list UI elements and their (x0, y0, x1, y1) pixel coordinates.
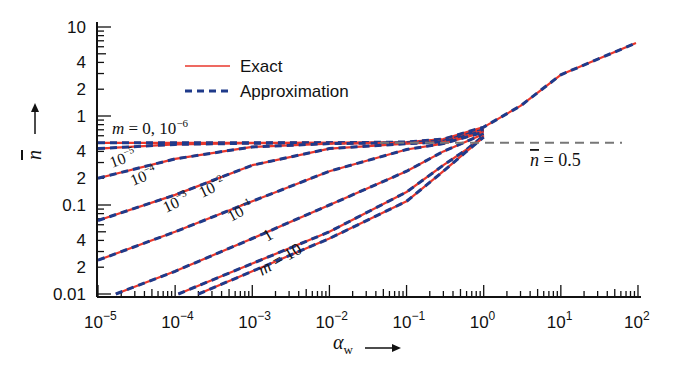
approx-curve (178, 136, 483, 294)
label-m0: m = 0, 10−6 (112, 117, 189, 138)
x-tick-label: 102 (624, 309, 650, 332)
exact-curve (178, 136, 483, 294)
x-tick-label: 10−3 (238, 309, 271, 332)
legend: Exact Approximation (185, 57, 349, 101)
x-axis-title: αw (333, 331, 354, 357)
y-tick-label: 2 (77, 80, 86, 99)
label-1e-4: 10−4 (127, 161, 159, 189)
log-log-line-chart: 10−510−410−310−210−1100101102 10421420.1… (0, 0, 676, 374)
x-tick-label: 100 (470, 309, 496, 332)
label-1e-1: 10−1 (223, 195, 255, 224)
y-tick-label: 2 (77, 169, 86, 188)
legend-exact-label: Exact (240, 57, 283, 76)
ref-line-label: n = 0.5 (530, 150, 581, 170)
label-m10: m = 10 (255, 239, 306, 279)
x-tick-label: 10−5 (84, 309, 117, 332)
x-tick-label: 10−4 (161, 309, 194, 332)
y-tick-label: 4 (77, 142, 86, 161)
y-tick-label: 2 (77, 258, 86, 277)
y-tick-label: 0.01 (53, 285, 86, 304)
y-tick-label: 1 (77, 107, 86, 126)
y-axis-arrow-head (31, 103, 39, 112)
x-tick-label: 10−1 (393, 309, 426, 332)
y-tick-label: 10 (67, 18, 86, 37)
y-tick-label: 0.1 (62, 196, 86, 215)
y-tick-label: 4 (77, 231, 86, 250)
legend-approx-label: Approximation (240, 82, 349, 101)
x-tick-label: 10−2 (315, 309, 348, 332)
x-tick-label: 101 (547, 309, 573, 332)
x-axis-arrow-head (392, 344, 401, 352)
y-axis-title: n (23, 150, 45, 160)
y-tick-label: 4 (77, 53, 86, 72)
y-tick-labels: 10421420.1420.01 (53, 18, 86, 304)
x-tick-labels: 10−510−410−310−210−1100101102 (84, 309, 650, 332)
